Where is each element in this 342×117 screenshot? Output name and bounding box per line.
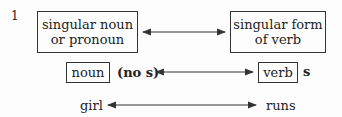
arrows-layer <box>0 0 342 117</box>
